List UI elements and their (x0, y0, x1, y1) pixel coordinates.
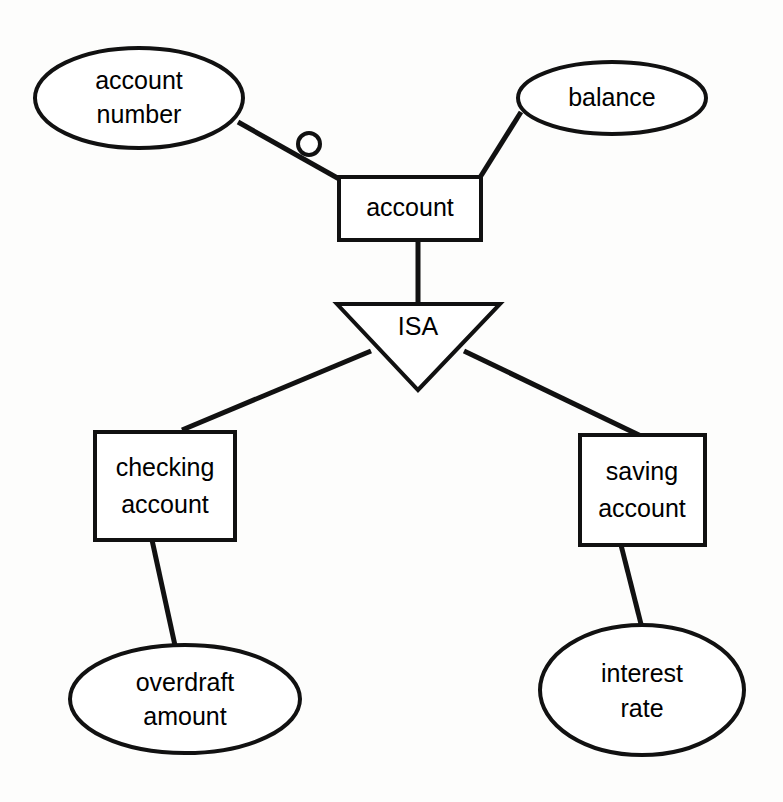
connector-isa-to-checking-account (182, 351, 371, 430)
attribute-overdraft-amount-label-line1: overdraft (136, 668, 235, 696)
attribute-interest-rate-label-line2: rate (620, 694, 663, 722)
entity-checking-account-label-line2: account (121, 490, 209, 518)
attribute-interest-rate[interactable]: interest rate (540, 625, 744, 755)
attribute-interest-rate-ellipse (540, 625, 744, 755)
attribute-account-number-ellipse (35, 48, 243, 148)
attribute-account-number-label-line2: number (97, 100, 182, 128)
entity-saving-account-label-line1: saving (606, 457, 678, 485)
attribute-overdraft-amount[interactable]: overdraft amount (70, 645, 300, 753)
entity-account[interactable]: account (339, 177, 481, 240)
attribute-account-number-label-line1: account (95, 66, 183, 94)
er-diagram-canvas: account number balance account ISA check… (0, 0, 783, 802)
attribute-interest-rate-label-line1: interest (601, 659, 683, 687)
entity-saving-account-box (580, 435, 705, 545)
entity-checking-account-label-line1: checking (116, 453, 215, 481)
entity-checking-account[interactable]: checking account (95, 432, 235, 540)
entity-saving-account[interactable]: saving account (580, 435, 705, 545)
attribute-balance[interactable]: balance (518, 62, 706, 134)
er-diagram-svg: account number balance account ISA check… (0, 0, 783, 802)
connector-account-number-to-account (238, 122, 341, 180)
attribute-account-number[interactable]: account number (35, 48, 243, 148)
connector-saving-account-to-interest-rate (621, 545, 642, 628)
attribute-balance-label: balance (568, 83, 656, 111)
connector-isa-to-saving-account (464, 351, 641, 436)
connector-balance-to-account (479, 112, 521, 179)
attribute-overdraft-amount-ellipse (70, 645, 300, 753)
entity-checking-account-box (95, 432, 235, 540)
attribute-overdraft-amount-label-line2: amount (143, 702, 226, 730)
optional-marker-circle-icon (298, 133, 320, 155)
isa-node[interactable]: ISA (337, 304, 500, 390)
connector-checking-account-to-overdraft-amount (152, 540, 176, 650)
entity-saving-account-label-line2: account (598, 494, 686, 522)
entity-account-label: account (366, 193, 454, 221)
isa-node-label: ISA (398, 312, 439, 340)
